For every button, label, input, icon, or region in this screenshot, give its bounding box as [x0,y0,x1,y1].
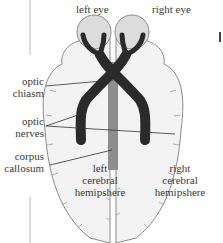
left-eye-label: left eye [76,3,109,15]
right-hemisphere-label: right cerebral hemipshere [146,162,214,198]
optic-nerves-label: optic nerves [0,115,44,139]
edge-mark [219,32,221,42]
corpus-callosum-label: corpus callosum [0,150,44,174]
optic-chiasm-label: optic chiasm [0,75,44,99]
right-eye-label: right eye [152,3,191,15]
right-eye [115,15,149,49]
left-eye [77,15,111,49]
left-hemisphere-label: left cerebral hemipshere [66,162,134,198]
